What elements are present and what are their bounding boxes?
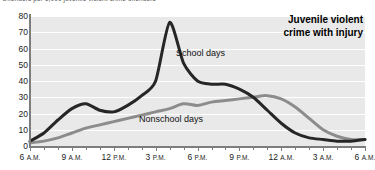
x-tick-label: 3 P.M.	[146, 152, 166, 163]
x-tick-label: 3 A.M.	[313, 152, 334, 163]
x-tick	[337, 146, 338, 150]
chart-title-line-2: crime with injury	[284, 27, 363, 40]
chart-title-line-1: Juvenile violent	[284, 14, 363, 27]
x-tick	[267, 146, 268, 150]
y-tick-label: 70	[2, 28, 28, 37]
x-tick	[114, 146, 115, 151]
x-tick	[323, 146, 324, 151]
y-tick-label: 20	[2, 110, 28, 119]
x-tick	[100, 146, 101, 150]
y-axis-line	[29, 14, 31, 148]
y-tick-label: 30	[2, 93, 28, 102]
x-tick	[44, 146, 45, 150]
series-label-school-days: School days	[176, 48, 225, 58]
x-tick	[184, 146, 185, 150]
chart-title: Juvenile violent crime with injury	[284, 14, 363, 39]
x-tick	[86, 146, 87, 150]
y-axis-labels: 80706050403020100	[0, 0, 28, 170]
x-tick	[253, 146, 254, 150]
x-tick-label: 12 P.M.	[101, 152, 126, 163]
x-tick-label: 6 A.M.	[20, 152, 41, 163]
x-tick	[351, 146, 352, 150]
x-tick	[295, 146, 296, 150]
x-tick	[170, 146, 171, 150]
x-tick-label: 9 A.M.	[61, 152, 82, 163]
y-tick-label: 80	[2, 12, 28, 21]
y-tick-label: 60	[2, 45, 28, 54]
series-label-nonschool-days: Nonschool days	[139, 114, 203, 124]
x-tick	[30, 146, 31, 151]
x-tick-label: 6 P.M.	[187, 152, 207, 163]
x-tick	[225, 146, 226, 150]
x-tick	[142, 146, 143, 150]
x-tick-label: 6 A.M.	[355, 152, 375, 163]
y-tick-label: 10	[2, 126, 28, 135]
x-tick	[128, 146, 129, 150]
y-tick-label: 40	[2, 77, 28, 86]
x-tick	[72, 146, 73, 151]
x-tick	[58, 146, 59, 150]
x-tick-label: 9 P.M.	[229, 152, 249, 163]
y-tick-label: 50	[2, 61, 28, 70]
x-tick	[309, 146, 310, 150]
x-tick-label: 12 A.M.	[268, 152, 294, 163]
x-tick	[365, 146, 366, 151]
x-tick	[156, 146, 157, 151]
x-tick	[281, 146, 282, 151]
x-tick	[198, 146, 199, 151]
x-tick	[239, 146, 240, 151]
x-axis-labels: 6 A.M.9 A.M.12 P.M.3 P.M.6 P.M.9 P.M.12 …	[0, 152, 371, 166]
x-tick	[212, 146, 213, 150]
